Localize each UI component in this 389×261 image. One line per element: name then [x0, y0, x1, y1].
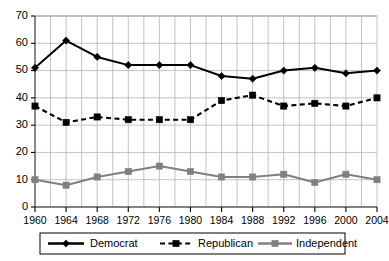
line-chart: 010203040506070 196019641968197219761980… — [0, 0, 389, 261]
legend-label-independent: Independent — [296, 237, 357, 249]
data-point-republican — [125, 117, 131, 123]
y-tick-label: 60 — [16, 36, 28, 48]
x-tick-label: 1984 — [210, 214, 234, 226]
legend-label-democrat: Democrat — [90, 237, 138, 249]
y-tick-label: 30 — [16, 118, 28, 130]
x-axis-tick-labels: 1960196419681972197619801984198819921996… — [23, 214, 389, 226]
y-tick-label: 0 — [22, 200, 28, 212]
x-tick-label: 1968 — [86, 214, 110, 226]
data-point-independent — [343, 171, 349, 177]
legend-marker-independent — [272, 240, 278, 246]
data-point-republican — [94, 114, 100, 120]
data-point-republican — [312, 100, 318, 106]
legend-marker-republican — [173, 240, 179, 246]
data-point-democrat — [187, 62, 194, 69]
data-point-republican — [63, 119, 69, 125]
gridlines — [35, 16, 377, 207]
data-point-independent — [281, 171, 287, 177]
y-axis-tick-labels: 010203040506070 — [16, 9, 28, 212]
y-tick-label: 20 — [16, 145, 28, 157]
x-tick-label: 1988 — [241, 214, 265, 226]
x-tick-label: 1992 — [272, 214, 296, 226]
data-point-democrat — [249, 75, 256, 82]
data-point-republican — [156, 117, 162, 123]
data-point-democrat — [218, 72, 225, 79]
y-tick-label: 70 — [16, 9, 28, 21]
y-tick-label: 50 — [16, 63, 28, 75]
data-point-independent — [94, 174, 100, 180]
data-point-independent — [32, 177, 38, 183]
y-tick-label: 40 — [16, 91, 28, 103]
x-tick-label: 1960 — [23, 214, 47, 226]
legend-label-republican: Republican — [198, 237, 253, 249]
data-point-republican — [281, 103, 287, 109]
x-tick-label: 1976 — [148, 214, 172, 226]
data-point-republican — [187, 117, 193, 123]
axes — [31, 16, 377, 212]
x-tick-label: 2000 — [334, 214, 358, 226]
y-tick-label: 10 — [16, 173, 28, 185]
data-point-republican — [374, 95, 380, 101]
x-tick-label: 2004 — [365, 214, 389, 226]
chart-container: 010203040506070 196019641968197219761980… — [0, 0, 389, 261]
data-point-independent — [187, 168, 193, 174]
chart-legend: DemocratRepublicanIndependent — [40, 233, 357, 254]
data-point-independent — [374, 177, 380, 183]
data-point-democrat — [156, 62, 163, 69]
data-point-republican — [343, 103, 349, 109]
data-point-democrat — [94, 53, 101, 60]
data-point-republican — [218, 97, 224, 103]
data-point-democrat — [125, 62, 132, 69]
data-point-independent — [156, 163, 162, 169]
x-tick-label: 1972 — [117, 214, 141, 226]
data-point-independent — [125, 168, 131, 174]
x-tick-label: 1996 — [303, 214, 327, 226]
data-point-republican — [250, 92, 256, 98]
x-tick-label: 1980 — [179, 214, 203, 226]
data-point-democrat — [280, 67, 287, 74]
data-point-independent — [218, 174, 224, 180]
data-point-republican — [32, 103, 38, 109]
data-point-independent — [250, 174, 256, 180]
data-point-independent — [63, 182, 69, 188]
data-point-democrat — [373, 67, 380, 74]
data-point-independent — [312, 179, 318, 185]
x-tick-label: 1964 — [54, 214, 78, 226]
